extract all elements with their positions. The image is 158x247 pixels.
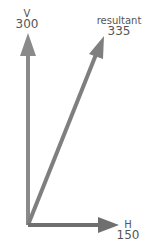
vector-diagram xyxy=(0,0,158,247)
vertical-vector-value: 300 xyxy=(12,19,42,30)
horizontal-vector-arrow xyxy=(28,217,119,233)
horizontal-vector-value: 150 xyxy=(114,230,142,241)
resultant-vector-label: resultant 335 xyxy=(96,16,142,37)
vertical-vector-arrow xyxy=(20,33,36,225)
resultant-vector-arrow xyxy=(28,36,104,225)
resultant-vector-value: 335 xyxy=(96,26,142,37)
horizontal-vector-label: H 150 xyxy=(114,220,142,241)
vertical-vector-label: V 300 xyxy=(12,9,42,30)
